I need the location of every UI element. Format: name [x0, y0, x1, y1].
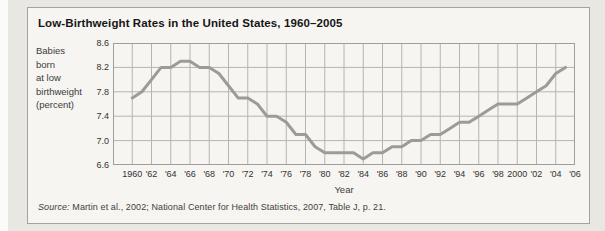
- figure-panel: Low-Birthweight Rates in the United Stat…: [27, 7, 590, 224]
- x-tick-label: '90: [415, 169, 427, 179]
- source-note: Source: Martin et al., 2002; National Ce…: [38, 202, 386, 212]
- x-tick-label: 2000: [507, 169, 527, 179]
- x-axis-title: Year: [113, 184, 575, 195]
- plot-area: [113, 43, 575, 165]
- y-tick-label: 7.8: [89, 87, 109, 97]
- y-axis-title-line: born: [36, 58, 82, 72]
- y-tick-label: 7.4: [89, 111, 109, 121]
- x-tick-label: '66: [184, 169, 196, 179]
- x-tick-label: '76: [280, 169, 292, 179]
- x-tick-label: '92: [434, 169, 446, 179]
- y-tick-label: 8.6: [89, 38, 109, 48]
- x-tick-label: '84: [357, 169, 369, 179]
- y-axis-title: Babies born at low birthweight (percent): [36, 44, 82, 112]
- y-axis-title-line: at low: [36, 71, 82, 85]
- y-axis-title-line: Babies: [36, 44, 82, 58]
- line-chart: [113, 43, 575, 165]
- x-tick-label: '62: [146, 169, 158, 179]
- y-axis-title-line: (percent): [36, 98, 82, 112]
- x-tick-label: '02: [531, 169, 543, 179]
- x-tick-label: '70: [223, 169, 235, 179]
- y-tick-label: 7.0: [89, 136, 109, 146]
- x-tick-label: '04: [550, 169, 562, 179]
- x-tick-label: '74: [261, 169, 273, 179]
- x-tick-label: '86: [377, 169, 389, 179]
- y-tick-label: 6.6: [89, 160, 109, 170]
- y-tick-label: 8.2: [89, 62, 109, 72]
- x-tick-label: '96: [473, 169, 485, 179]
- x-tick-label: '68: [203, 169, 215, 179]
- x-tick-label: '64: [165, 169, 177, 179]
- data-line: [132, 61, 565, 159]
- y-axis-title-line: birthweight: [36, 85, 82, 99]
- x-tick-label: '88: [396, 169, 408, 179]
- x-tick-label: '06: [569, 169, 581, 179]
- source-text: Martin et al., 2002; National Center for…: [70, 202, 386, 212]
- x-tick-label: '80: [319, 169, 331, 179]
- x-tick-label: '94: [454, 169, 466, 179]
- x-tick-label: '78: [300, 169, 312, 179]
- x-tick-label: 1960: [122, 169, 142, 179]
- page-margin-strip: [0, 0, 8, 231]
- x-tick-label: '72: [242, 169, 254, 179]
- x-tick-label: '82: [338, 169, 350, 179]
- x-tick-label: '98: [492, 169, 504, 179]
- chart-title: Low-Birthweight Rates in the United Stat…: [38, 17, 342, 29]
- source-prefix: Source:: [38, 202, 70, 212]
